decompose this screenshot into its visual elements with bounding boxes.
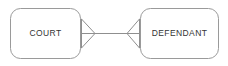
relationship-court-defendant[interactable]: [82, 19, 140, 48]
er-diagram: DEFENDANT ===== -->: [0, 0, 228, 66]
crows-foot-prong-upper-left: [82, 19, 96, 34]
entity-defendant[interactable]: DEFENDANT: [141, 9, 219, 59]
crows-foot-many-left: [82, 19, 96, 48]
crows-foot-prong-lower-right: [127, 34, 140, 49]
crows-foot-many-right: [127, 19, 140, 48]
entity-court-label: COURT: [29, 28, 61, 38]
crows-foot-prong-lower-left: [82, 34, 96, 49]
crows-foot-prong-upper-right: [127, 19, 140, 34]
entity-defendant-label: DEFENDANT: [152, 28, 208, 38]
entity-court[interactable]: COURT: [11, 9, 81, 59]
diagram-canvas: DEFENDANT ===== -->: [0, 0, 228, 66]
